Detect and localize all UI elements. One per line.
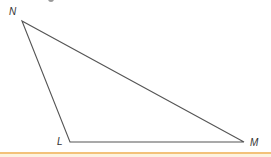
footer-panel <box>0 154 271 157</box>
diagram-canvas: N L M <box>0 0 271 157</box>
vertex-label-m: M <box>250 138 258 148</box>
triangle-nlm <box>0 0 271 157</box>
triangle-shape <box>22 21 244 142</box>
vertex-label-l: L <box>57 137 63 147</box>
vertex-label-n: N <box>9 7 16 17</box>
